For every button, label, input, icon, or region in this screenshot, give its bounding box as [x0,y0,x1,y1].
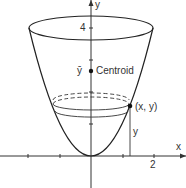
centroid-marker [89,69,93,73]
point-marker [128,104,133,109]
x-axis-label: x [176,142,181,152]
y-axis-arrow-icon [89,0,94,6]
ybar-label: ȳ [77,66,82,76]
y-tick-label-4: 4 [80,23,86,33]
x-axis-arrow-icon [180,154,186,159]
centroid-label: Centroid [96,66,134,76]
y-axis-label: y [95,0,100,10]
paraboloid-diagram [0,0,186,188]
point-label: (x, y) [135,102,157,112]
x-tick-label-2: 2 [150,160,156,170]
height-label: y [133,127,138,137]
